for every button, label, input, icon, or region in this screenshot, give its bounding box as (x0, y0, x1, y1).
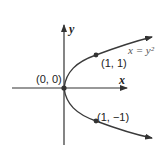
point-1-1 (94, 53, 99, 58)
point-1-neg1-label: (1, −1) (97, 111, 129, 123)
x-axis-label: x (118, 73, 125, 87)
y-axis-label: y (67, 22, 75, 36)
point-origin (61, 85, 66, 90)
point-1-1-label: (1, 1) (101, 57, 127, 69)
origin-label: (0, 0) (36, 73, 62, 85)
curve-equation-label: x = y² (127, 44, 155, 56)
parabola-diagram: y x (0, 0) (1, 1) (1, −1) x = y² (0, 0, 167, 155)
